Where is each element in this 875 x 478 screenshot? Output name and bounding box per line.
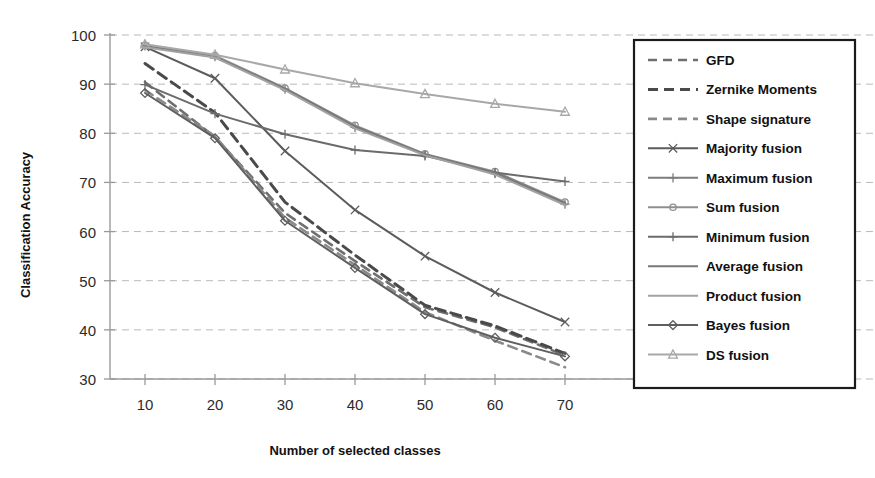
x-tick-label: 40 xyxy=(347,396,364,413)
legend-label: Zernike Moments xyxy=(706,82,817,97)
x-tick-label: 50 xyxy=(417,396,434,413)
x-tick-label: 70 xyxy=(557,396,574,413)
y-tick-label: 30 xyxy=(79,371,96,388)
y-tick-label: 40 xyxy=(79,322,96,339)
y-tick-label: 80 xyxy=(79,125,96,142)
y-tick-label: 70 xyxy=(79,174,96,191)
y-axis-title: Classification Accuracy xyxy=(18,151,33,298)
y-tick-label: 60 xyxy=(79,224,96,241)
chart-legend: GFDZernike MomentsShape signatureMajorit… xyxy=(634,40,855,388)
legend-label: Minimum fusion xyxy=(706,230,810,245)
legend-label: Maximum fusion xyxy=(706,171,813,186)
x-tick-label: 20 xyxy=(207,396,224,413)
x-axis-title: Number of selected classes xyxy=(269,443,440,458)
x-tick-label: 60 xyxy=(487,396,504,413)
legend-label: Majority fusion xyxy=(706,141,802,156)
chart-figure: 1009080706050403010203040506070 GFDZerni… xyxy=(0,0,875,478)
legend-label: Sum fusion xyxy=(706,200,780,215)
x-tick-label: 10 xyxy=(137,396,154,413)
legend-label: Shape signature xyxy=(706,112,812,127)
x-tick-label: 30 xyxy=(277,396,294,413)
y-tick-label: 100 xyxy=(71,27,96,44)
legend-label: GFD xyxy=(706,53,735,68)
legend-label: DS fusion xyxy=(706,348,769,363)
y-tick-label: 90 xyxy=(79,76,96,93)
legend-label: Product fusion xyxy=(706,289,801,304)
y-tick-label: 50 xyxy=(79,273,96,290)
legend-label: Average fusion xyxy=(706,259,803,274)
legend-label: Bayes fusion xyxy=(706,318,790,333)
